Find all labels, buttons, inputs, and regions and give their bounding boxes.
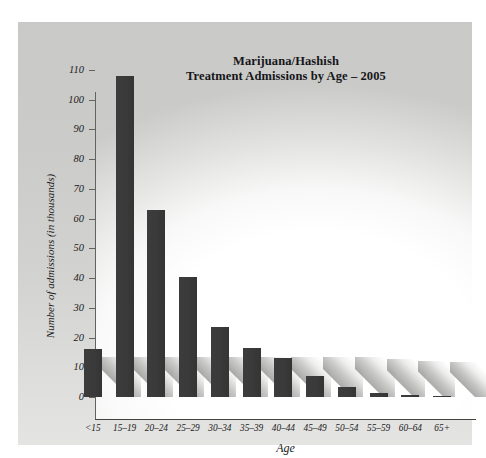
bar[interactable]: [401, 395, 419, 397]
y-axis-tick: [89, 248, 95, 249]
bar[interactable]: [116, 76, 134, 397]
y-axis-tick: [89, 397, 95, 398]
chart-panel: Marijuana/Hashish Treatment Admissions b…: [18, 22, 472, 445]
y-axis-tick-label-text: 110: [44, 64, 84, 75]
x-axis-tick-label: 20–24: [141, 423, 173, 433]
x-axis-tick-label: 35–39: [236, 423, 268, 433]
chart-figure: Marijuana/Hashish Treatment Admissions b…: [0, 0, 486, 458]
y-axis-tick: [89, 278, 95, 279]
x-axis-tick-label: 60–64: [395, 423, 427, 433]
x-axis-tick-label: 25–29: [172, 423, 204, 433]
chart-title: Marijuana/Hashish Treatment Admissions b…: [96, 54, 476, 84]
x-axis-tick-label: 40–44: [268, 423, 300, 433]
chart-title-line-1: Marijuana/Hashish: [96, 54, 476, 69]
x-axis-tick-label: 45–49: [299, 423, 331, 433]
x-axis-tick-label: 15–19: [109, 423, 141, 433]
bar[interactable]: [243, 348, 261, 397]
bar[interactable]: [433, 396, 451, 397]
y-axis-tick-label-text: 100: [44, 94, 84, 105]
y-axis-tick: [89, 159, 95, 160]
bar[interactable]: [338, 387, 356, 397]
y-axis-title: Number of admissions (in thousands): [44, 106, 56, 406]
x-axis-tick-label: 30–34: [204, 423, 236, 433]
x-axis-line: [95, 419, 476, 420]
bar[interactable]: [370, 393, 388, 397]
x-axis-title: Age: [95, 441, 476, 456]
bar[interactable]: [274, 358, 292, 397]
x-axis-tick-label: 50–54: [331, 423, 363, 433]
y-axis-tick-label: 110: [44, 64, 84, 76]
x-axis-tick-label: <15: [77, 423, 109, 433]
bar[interactable]: [306, 376, 324, 397]
y-axis-tick: [89, 189, 95, 190]
y-axis-tick: [89, 100, 95, 101]
y-axis-tick: [89, 308, 95, 309]
y-axis-tick: [89, 219, 95, 220]
y-axis-tick: [89, 129, 95, 130]
bar[interactable]: [211, 327, 229, 397]
bar[interactable]: [147, 210, 165, 397]
y-axis-tick: [89, 70, 95, 71]
y-axis-tick-label: 100: [44, 94, 84, 106]
x-axis-tick-label: 65+: [426, 423, 458, 433]
bar[interactable]: [179, 277, 197, 397]
x-axis-tick-label: 55–59: [363, 423, 395, 433]
chart-title-line-2: Treatment Admissions by Age – 2005: [96, 69, 476, 84]
y-axis-tick: [89, 338, 95, 339]
bar[interactable]: [84, 349, 102, 397]
